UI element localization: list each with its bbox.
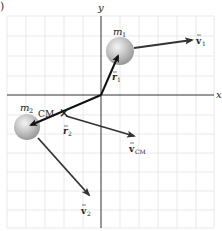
svg-text:v: v <box>80 206 87 216</box>
mass-m1-sphere <box>106 37 134 65</box>
label-r2: r 2 <box>63 126 72 137</box>
vector-v2 <box>38 138 89 195</box>
label-v1: v 1 <box>195 35 206 47</box>
label-m2: m 2 <box>20 102 33 115</box>
svg-text:v: v <box>195 36 202 46</box>
cm-label: CM <box>38 109 54 119</box>
label-vcm: v CM <box>128 143 146 155</box>
svg-text:2: 2 <box>29 107 33 115</box>
center-of-mass-marker: × CM <box>38 106 69 120</box>
svg-text:2: 2 <box>68 130 72 137</box>
y-axis-label: y <box>97 2 104 13</box>
svg-text:1: 1 <box>117 76 121 83</box>
label-r1: r 1 <box>112 72 121 83</box>
mass-m2-sphere <box>14 114 40 140</box>
vector-vcm <box>66 116 134 136</box>
svg-text:v: v <box>128 144 135 154</box>
svg-text:2: 2 <box>87 210 91 217</box>
svg-text:1: 1 <box>122 31 126 39</box>
label-v2: v 2 <box>80 205 91 217</box>
vector-v1 <box>134 40 192 48</box>
svg-text:CM: CM <box>135 148 146 155</box>
cross-icon: × <box>59 106 69 120</box>
x-axis-label: x <box>216 89 222 100</box>
svg-text:1: 1 <box>202 40 206 47</box>
center-of-mass-diagram: y x × CM m 1 m 2 r 1 r 2 v 1 v <box>0 0 222 231</box>
